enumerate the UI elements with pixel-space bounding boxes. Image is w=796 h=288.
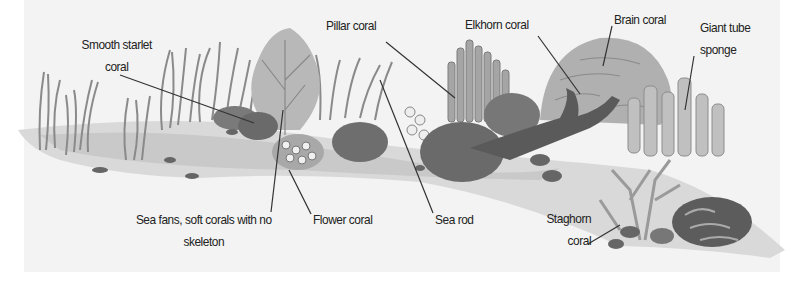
label-line: sponge	[700, 39, 750, 61]
label-flower-coral: Flower coral	[313, 209, 372, 231]
label-line: coral	[533, 230, 591, 252]
label-line: Brain coral	[614, 9, 666, 31]
label-line: Sea rod	[435, 209, 474, 231]
label-line: coral	[63, 56, 170, 78]
star-coral-mound	[332, 122, 388, 162]
label-line: Sea fans, soft corals with no	[129, 209, 279, 231]
label-sea-fans: Sea fans, soft corals with no skeleton	[129, 209, 279, 253]
label-line: Smooth starlet	[63, 34, 170, 56]
label-line: Giant tube	[700, 17, 750, 39]
label-staghorn-coral: Staghorn coral	[533, 208, 591, 252]
label-smooth-starlet-coral: Smooth starlet coral	[63, 34, 170, 78]
label-giant-tube-sponge: Giant tube sponge	[700, 17, 750, 61]
label-elkhorn-coral: Elkhorn coral	[465, 14, 529, 36]
label-line: Elkhorn coral	[465, 14, 529, 36]
flower-coral-cluster	[405, 107, 429, 140]
label-line: Pillar coral	[326, 15, 376, 37]
label-pillar-coral: Pillar coral	[326, 15, 376, 37]
smooth-starlet-rock	[238, 112, 278, 140]
label-sea-rod: Sea rod	[435, 209, 474, 231]
brain-coral-small	[672, 197, 752, 247]
label-line: skeleton	[129, 231, 279, 253]
label-line: Staghorn	[533, 208, 591, 230]
label-brain-coral: Brain coral	[614, 9, 666, 31]
label-line: Flower coral	[313, 209, 372, 231]
